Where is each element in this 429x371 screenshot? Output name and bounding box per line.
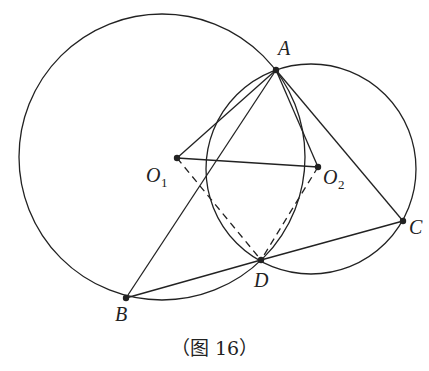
- point-O2: [315, 164, 321, 170]
- label-A: A: [276, 37, 291, 59]
- label-C: C: [409, 216, 423, 238]
- point-A: [273, 67, 279, 73]
- segment-O1-O2: [177, 158, 318, 167]
- point-D: [258, 257, 264, 263]
- label-O2-subscript: 2: [338, 177, 345, 192]
- point-B: [123, 295, 129, 301]
- segment-A-O2: [276, 70, 318, 167]
- circle-O2: [206, 64, 416, 274]
- figure-caption: （图 16）: [0, 333, 429, 360]
- segment-B-D: [126, 260, 261, 298]
- segment-O1-D: [177, 158, 261, 260]
- label-O2: O: [323, 166, 337, 188]
- geometry-figure: ABCDO1O2: [0, 0, 429, 371]
- label-B: B: [115, 303, 127, 325]
- point-O1: [174, 155, 180, 161]
- segment-D-C: [261, 221, 403, 260]
- label-D: D: [253, 269, 269, 291]
- label-O1-subscript: 1: [161, 175, 168, 190]
- point-C: [400, 218, 406, 224]
- label-O1: O: [146, 164, 160, 186]
- circles-group: [19, 14, 416, 300]
